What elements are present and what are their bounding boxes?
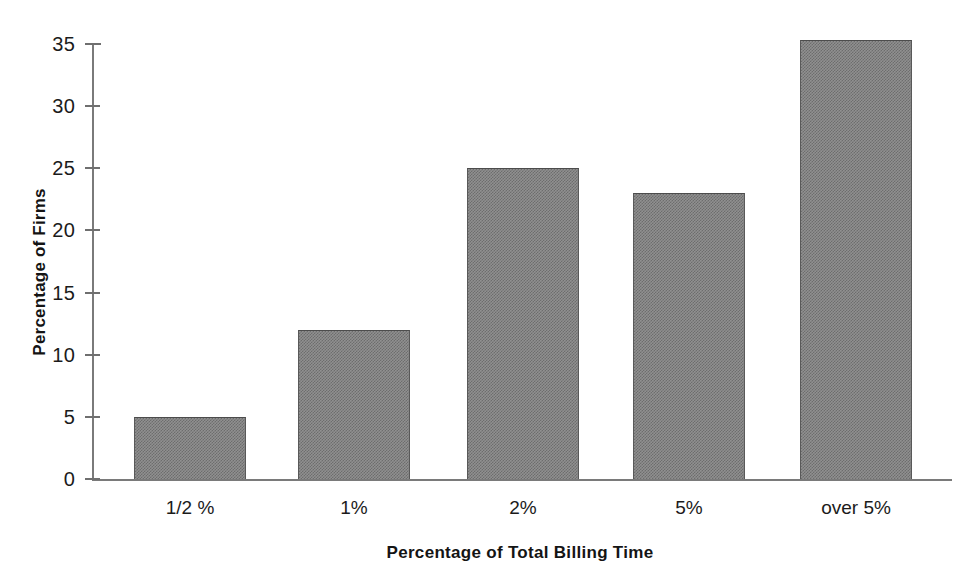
y-axis-tick-label-text: 30 — [0, 96, 75, 116]
y-axis-tick — [85, 478, 100, 480]
y-axis-tick-label-text: 25 — [0, 158, 75, 178]
x-axis-line — [92, 479, 952, 481]
y-axis-tick-label: 20 — [0, 220, 75, 240]
y-axis-tick — [85, 416, 100, 418]
bar — [298, 330, 410, 479]
y-axis-tick-label-text: 15 — [0, 283, 75, 303]
y-axis-tick — [85, 43, 101, 45]
y-axis-tick-label-text: 10 — [0, 345, 75, 365]
y-axis-tick-label-text: 0 — [0, 469, 75, 489]
y-axis-tick-label: 10 — [0, 345, 75, 365]
y-axis-tick — [85, 229, 100, 231]
bar — [800, 40, 912, 479]
y-axis-tick-label: 30 — [0, 96, 75, 116]
x-axis-tick-label: 1% — [258, 498, 450, 517]
bar — [134, 417, 246, 479]
y-axis-tick-label-text: 20 — [0, 220, 75, 240]
y-axis-tick-label: 15 — [0, 283, 75, 303]
y-axis-line — [92, 44, 94, 480]
y-axis-tick-label: 35 — [0, 34, 75, 54]
bar — [467, 168, 579, 479]
y-axis-tick-label-text: 35 — [0, 34, 75, 54]
x-axis-tick-label: over 5% — [760, 498, 952, 517]
y-axis-tick-label-text: 5 — [0, 407, 75, 427]
bar — [633, 193, 745, 479]
y-axis-tick-label: 5 — [0, 407, 75, 427]
y-axis-tick — [85, 167, 100, 169]
x-axis-tick-label: 5% — [593, 498, 785, 517]
y-axis-tick — [85, 292, 100, 294]
x-axis-title: Percentage of Total Billing Time — [0, 543, 972, 563]
y-axis-tick-label: 25 — [0, 158, 75, 178]
y-axis-tick — [85, 354, 100, 356]
bar-chart: Percentage of Firms 05101520253035 1/2 %… — [0, 0, 972, 584]
y-axis-tick — [85, 105, 100, 107]
y-axis-tick-label: 0 — [0, 469, 75, 489]
x-axis-tick-label: 2% — [427, 498, 619, 517]
